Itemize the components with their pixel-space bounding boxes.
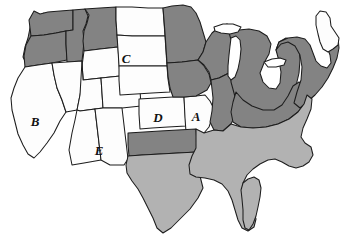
state-maine <box>316 11 339 52</box>
region-florida <box>241 177 261 230</box>
state-nebraska <box>119 66 170 95</box>
state-wyoming <box>82 47 120 80</box>
region-label-b: B <box>30 114 40 129</box>
state-montana <box>83 7 118 51</box>
lake-superior <box>214 24 241 34</box>
region-label-e: E <box>94 143 104 158</box>
state-north-dakota <box>116 7 165 36</box>
lake-erie-ontario <box>264 58 286 67</box>
state-minnesota <box>163 5 206 63</box>
region-label-a: A <box>191 109 201 124</box>
region-label-d: D <box>152 110 163 125</box>
region-label-c: C <box>122 51 131 66</box>
us-map-graphic: A B C D E <box>0 0 345 239</box>
us-region-map-figure: A B C D E <box>0 0 345 239</box>
state-oregon <box>24 31 67 67</box>
